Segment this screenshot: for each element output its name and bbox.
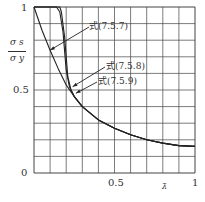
x-tick-1: 1 bbox=[192, 178, 198, 188]
y-axis-label-fraction-bar bbox=[8, 51, 26, 52]
x-axis-label: λ̄ bbox=[162, 183, 167, 191]
y-axis-label-denominator: σ y bbox=[10, 54, 24, 63]
annotation-leader-line bbox=[50, 27, 89, 50]
annotation-eq-7-5-9: 式(7.5.9) bbox=[98, 77, 137, 86]
arrowhead-icon bbox=[73, 83, 78, 87]
annotation-eq-7-5-8: 式(7.5.8) bbox=[106, 62, 145, 71]
y-tick-1: 1 bbox=[21, 3, 27, 13]
y-axis-label-numerator: σ s bbox=[10, 38, 24, 47]
arrowhead-icon bbox=[50, 46, 55, 50]
y-tick-0.5: 0.5 bbox=[13, 85, 29, 95]
y-tick-0: 0 bbox=[21, 168, 27, 178]
annotation-eq-7-5-7: 式(7.5.7) bbox=[89, 22, 128, 31]
x-tick-0.5: 0.5 bbox=[108, 178, 124, 188]
